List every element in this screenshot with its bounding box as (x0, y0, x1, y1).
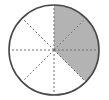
shaded-sector (54, 50, 99, 82)
dashed-divider-line (22, 18, 54, 50)
fraction-circle-diagram (0, 0, 109, 100)
dashed-divider-line (22, 50, 54, 82)
fraction-circle-svg (0, 0, 109, 100)
